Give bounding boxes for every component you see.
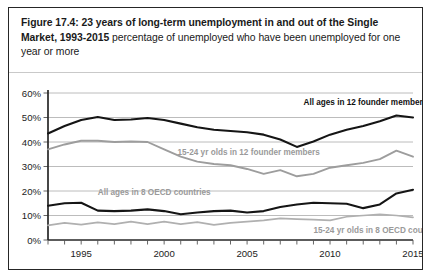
series-annotation-1: 15-24 yr olds in 12 founder members <box>177 148 320 157</box>
line-chart: 0%10%20%30%40%50%60%19952000200520102015… <box>9 74 422 269</box>
series-line-1 <box>48 141 413 177</box>
series-annotation-2: All ages in 8 OECD countries <box>98 188 211 197</box>
xtick-label: 2010 <box>319 248 340 259</box>
ytick-label: 30% <box>22 161 42 172</box>
chart-area: 0%10%20%30%40%50%60%19952000200520102015… <box>9 74 422 269</box>
xtick-label: 2000 <box>153 248 174 259</box>
xtick-label: 2015 <box>402 248 422 259</box>
ytick-label: 10% <box>22 210 42 221</box>
ytick-label: 50% <box>22 112 42 123</box>
series-annotation-0: All ages in 12 founder member countries <box>304 98 423 107</box>
series-annotation-3: 15-24 yr olds in 8 OECD countries <box>313 226 422 235</box>
figure-page: Figure 17.4: 23 years of long-term unemp… <box>0 0 433 278</box>
ytick-label: 0% <box>27 235 41 246</box>
xtick-label: 2005 <box>236 248 257 259</box>
caption-divider <box>9 72 422 73</box>
xtick-label: 1995 <box>71 248 92 259</box>
ytick-label: 20% <box>22 186 42 197</box>
ytick-label: 40% <box>22 137 42 148</box>
ytick-label: 60% <box>22 88 42 99</box>
figure-caption: Figure 17.4: 23 years of long-term unemp… <box>21 16 411 60</box>
